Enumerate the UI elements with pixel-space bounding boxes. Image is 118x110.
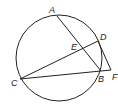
- label-e: E: [71, 42, 78, 52]
- label-d: D: [100, 32, 107, 42]
- label-f: F: [112, 72, 118, 82]
- label-b: B: [98, 74, 104, 84]
- geometry-diagram: A D E B F C: [0, 0, 118, 110]
- segment-cd: [20, 41, 98, 79]
- label-c: C: [11, 78, 18, 88]
- circle: [16, 15, 102, 101]
- segment-df: [98, 41, 111, 70]
- label-a: A: [48, 5, 55, 15]
- segment-ab: [57, 16, 101, 71]
